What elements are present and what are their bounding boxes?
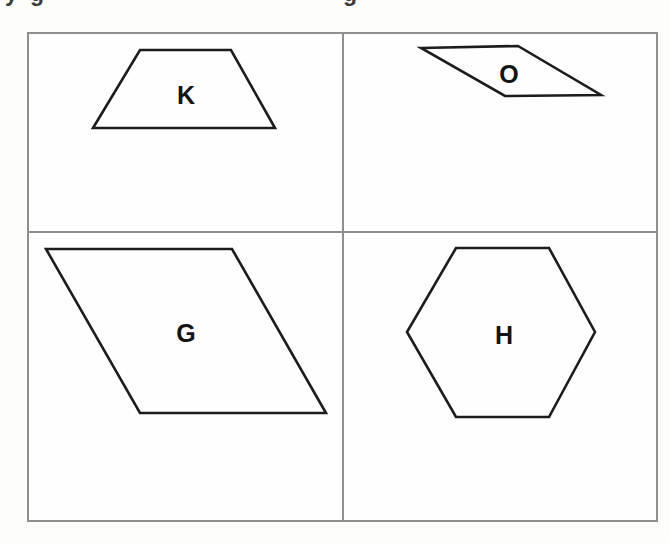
shapes-grid [27,32,658,522]
grid-vertical-divider [342,34,344,520]
shape-label-K: K [177,83,195,108]
partial-glyph-descender: g [343,0,357,5]
grid-horizontal-divider [29,231,656,233]
worksheet-page: y g g K O G H [0,0,669,543]
shape-label-G: G [176,321,195,346]
partial-glyph-descender: g [30,0,44,5]
cropped-text-line: y g g [0,0,669,9]
shape-label-H: H [495,323,513,348]
partial-glyph-descender: y [5,0,18,5]
shape-label-O: O [499,62,518,87]
